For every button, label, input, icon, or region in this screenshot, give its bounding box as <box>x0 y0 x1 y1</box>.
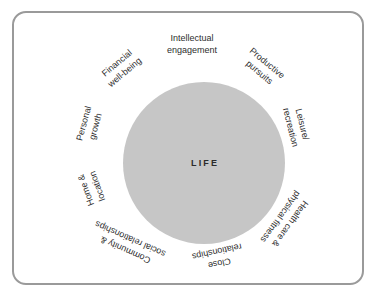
life-center-label: LIFE <box>123 82 285 244</box>
radial-label-text: Intellectualengagement <box>167 33 217 56</box>
life-circle: LIFE <box>123 82 285 244</box>
radial-label-text: Closerelationships <box>191 240 245 273</box>
radial-label-line1: Intellectual <box>170 33 213 43</box>
figure-frame: LIFE IntellectualengagementProductivepur… <box>12 11 364 285</box>
radial-label-text: Home &location <box>76 169 109 207</box>
life-domains-figure: LIFE IntellectualengagementProductivepur… <box>0 0 380 302</box>
radial-label-line1: Close <box>207 256 232 271</box>
radial-label-text: Personalgrowth <box>74 104 105 144</box>
radial-label-line2: engagement <box>167 44 217 56</box>
